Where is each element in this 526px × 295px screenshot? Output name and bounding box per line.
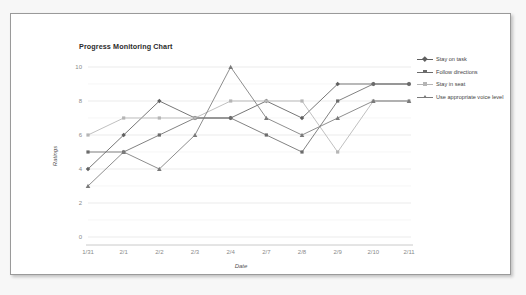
legend-item[interactable]: Stay in seat [417,81,509,88]
data-point-marker [336,150,339,153]
y-axis-tick-label: 6 [79,132,83,138]
chart-legend: Stay on task Follow directions Stay in s… [417,56,509,106]
plot-area: 0246810 1/312/12/22/32/42/72/82/92/102/1… [11,14,512,276]
data-point-marker [372,82,375,85]
y-axis-tick-label: 10 [75,64,82,70]
x-axis-tick-label: 2/7 [262,249,271,255]
y-axis-tick-label: 0 [79,234,83,240]
legend-marker [423,82,427,86]
legend-marker [423,95,427,98]
y-axis-title: Ratings [52,146,58,166]
x-axis-tick-label: 2/11 [403,249,415,255]
data-point-marker [407,82,410,85]
data-point-marker [86,133,89,136]
legend-item-label: Stay in seat [436,81,465,88]
legend-marker-icon [417,69,433,76]
y-axis-tick-label: 4 [79,166,83,172]
chart-card: Progress Monitoring Chart 0246810 1/312/… [10,13,511,275]
chart-svg: 0246810 1/312/12/22/32/42/72/82/92/102/1… [11,14,512,276]
data-point-marker [336,99,339,102]
data-point-marker [229,116,232,119]
gridlines [88,67,411,237]
data-point-marker [229,99,232,102]
data-point-marker [158,133,161,136]
x-axis-tick-label: 1/31 [82,249,94,255]
legend-marker [423,70,427,74]
x-axis-tick-label: 2/9 [333,249,342,255]
legend-item[interactable]: Follow directions [417,69,509,76]
data-point-marker [122,116,125,119]
data-point-marker [265,99,268,102]
legend-item-label: Use appropriate voice level [436,94,503,101]
legend-item[interactable]: Stay on task [417,56,509,63]
legend-marker-icon [417,94,433,101]
screenshot-root: Progress Monitoring Chart 0246810 1/312/… [0,0,526,295]
legend-marker [422,56,427,61]
legend-marker-icon [417,81,433,88]
x-axis-tick-label: 2/10 [367,249,379,255]
x-axis-tick-label: 2/8 [298,249,307,255]
legend-item[interactable]: Use appropriate voice level [417,94,509,101]
data-point-marker [265,133,268,136]
data-point-marker [193,116,196,119]
data-point-marker [300,99,303,102]
x-axis-tick-label: 2/2 [155,249,164,255]
x-axis-tick-labels: 1/312/12/22/32/42/72/82/92/102/11 [82,249,415,255]
data-point-marker [300,150,303,153]
y-axis-tick-label: 8 [79,98,83,104]
x-axis-tick-label: 2/3 [191,249,200,255]
x-axis-title: Date [235,263,248,269]
y-axis-tick-label: 2 [79,200,83,206]
x-axis-tick-label: 2/1 [119,249,128,255]
data-point-marker [158,116,161,119]
x-axis-tick-label: 2/4 [226,249,235,255]
legend-item-label: Stay on task [436,56,467,63]
data-point-marker [86,150,89,153]
legend-item-label: Follow directions [436,69,478,76]
legend-marker-icon [417,56,433,63]
series-layer [86,65,412,188]
y-axis-tick-labels: 0246810 [75,64,82,240]
